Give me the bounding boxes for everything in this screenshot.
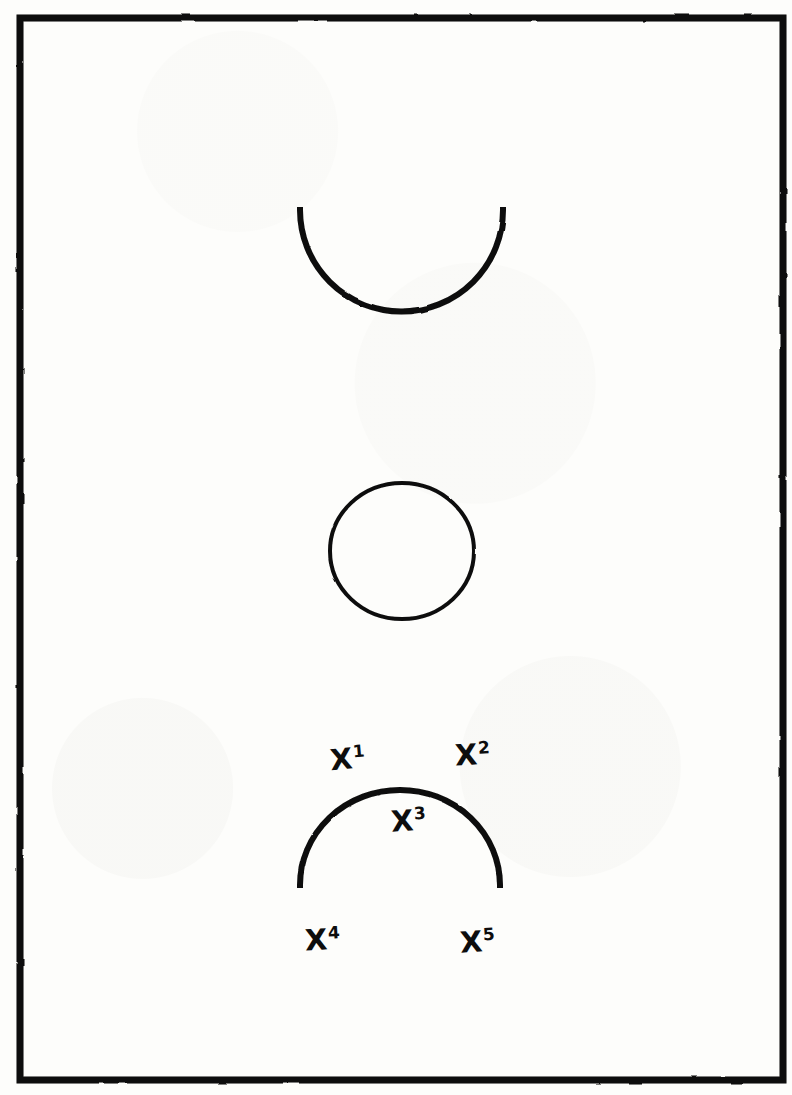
basketball-court-drawing bbox=[0, 0, 792, 1095]
player-marker-x5: X5 bbox=[459, 926, 496, 958]
player-marker-x4-superscript: 4 bbox=[327, 922, 340, 943]
player-marker-x4: X4 bbox=[304, 924, 341, 955]
top-key-free-throw-arc bbox=[300, 210, 503, 312]
player-marker-x3: X3 bbox=[390, 805, 427, 837]
player-marker-x5-superscript: 5 bbox=[482, 924, 495, 945]
court-diagram-page: X1 X2 X3 X4 X5 bbox=[0, 0, 792, 1095]
player-marker-x3-base: X bbox=[390, 803, 415, 838]
court-boundary bbox=[20, 18, 783, 1080]
player-marker-x1-superscript: 1 bbox=[352, 741, 366, 762]
player-marker-x1-base: X bbox=[329, 741, 354, 777]
player-marker-x5-base: X bbox=[459, 924, 484, 959]
player-marker-x4-base: X bbox=[304, 922, 328, 957]
player-marker-x3-superscript: 3 bbox=[413, 803, 426, 824]
player-marker-x2-base: X bbox=[454, 737, 478, 772]
player-marker-x1: X1 bbox=[329, 743, 367, 776]
player-marker-x2-superscript: 2 bbox=[477, 737, 490, 758]
player-marker-x2: X2 bbox=[454, 739, 491, 770]
